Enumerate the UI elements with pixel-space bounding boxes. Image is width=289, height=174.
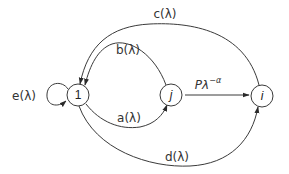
edge-p-label-base: Pλ <box>195 78 209 92</box>
edge-b-label: b(λ) <box>116 43 140 57</box>
node-1: 1 <box>67 84 89 106</box>
edge-e-label: e(λ) <box>12 89 36 103</box>
edge-d: d(λ) <box>79 106 258 166</box>
node-i: i <box>251 85 273 107</box>
node-j: j <box>160 84 182 106</box>
edge-p-label: Pλ−α <box>195 76 222 93</box>
edge-a-label: a(λ) <box>117 111 141 125</box>
edge-d-label: d(λ) <box>165 150 189 164</box>
edge-e-loop <box>47 83 68 105</box>
edge-e: e(λ) <box>12 83 68 105</box>
edge-c-label: c(λ) <box>153 7 176 21</box>
edge-b: b(λ) <box>85 43 166 85</box>
edge-c-arc <box>80 24 259 85</box>
edge-p: Pλ−α <box>185 76 249 96</box>
edge-p-label-exponent: −α <box>209 76 222 85</box>
node-i-label: i <box>261 89 264 103</box>
state-transition-diagram: c(λ) b(λ) a(λ) d(λ) Pλ−α e(λ) 1 j i <box>0 0 289 174</box>
node-1-label: 1 <box>75 88 82 102</box>
edge-a: a(λ) <box>86 104 167 128</box>
